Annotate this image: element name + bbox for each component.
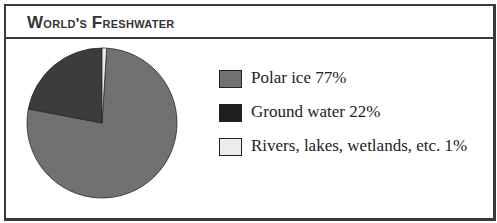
pie-chart [22, 41, 182, 201]
legend-swatch-rivers-lakes [219, 138, 242, 156]
chart-header: World's Freshwater [6, 6, 493, 39]
legend-label: Rivers, lakes, wetlands, etc. 1% [251, 136, 467, 156]
legend-label: Ground water 22% [251, 102, 380, 122]
legend-swatch-ground-water [219, 104, 242, 122]
chart-title: World's Freshwater [27, 13, 175, 33]
legend-swatch-polar-ice [219, 70, 242, 88]
legend-label: Polar ice 77% [251, 68, 346, 88]
